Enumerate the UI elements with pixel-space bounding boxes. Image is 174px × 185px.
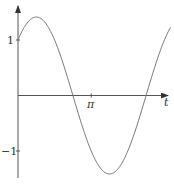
- x-tick-label-pi: π: [86, 98, 95, 111]
- y-tick-label-neg1: −1: [1, 145, 17, 158]
- y-tick-label-1: 1: [7, 34, 14, 47]
- plot-area: 1 −1 π t: [0, 0, 174, 185]
- x-axis-label: t: [164, 96, 169, 109]
- chart: 1 −1 π t: [0, 0, 174, 185]
